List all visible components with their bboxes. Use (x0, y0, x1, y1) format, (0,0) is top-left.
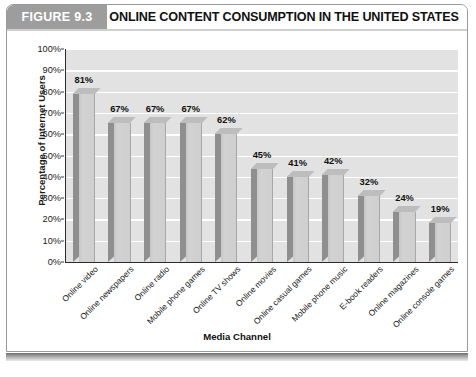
bar-top-face (287, 171, 315, 177)
bar[interactable] (144, 117, 166, 262)
bar-group[interactable]: 62% (215, 49, 237, 262)
bar-value-label: 62% (215, 115, 237, 125)
bar[interactable] (251, 163, 273, 262)
y-axis-tick-mark (61, 91, 64, 92)
bar[interactable] (108, 117, 130, 262)
bar[interactable] (73, 88, 95, 262)
bar-value-label: 67% (180, 104, 202, 114)
y-axis-tick-label: 80% (27, 87, 61, 97)
bar-top-face (144, 117, 172, 123)
y-axis-tick-label: 30% (27, 193, 61, 203)
bar-top-face (358, 190, 386, 196)
bar-top-face (73, 88, 101, 94)
bar-value-label: 41% (287, 158, 309, 168)
bar-value-label: 32% (358, 177, 380, 187)
bar-group[interactable]: 24% (393, 49, 415, 262)
bar-group[interactable]: 67% (108, 49, 130, 262)
y-axis-tick-mark (61, 155, 64, 156)
plot-area: 81%67%67%67%62%45%41%42%32%24%19% (65, 49, 458, 263)
bar-front-face (435, 223, 451, 262)
page-bottom-strip (6, 353, 468, 361)
bar-group[interactable]: 32% (358, 49, 380, 262)
y-axis-tick-mark (61, 112, 64, 113)
bar-group[interactable]: 45% (251, 49, 273, 262)
y-axis-tick-label: 0% (27, 257, 61, 267)
bar-top-face (180, 117, 208, 123)
bar-group[interactable]: 81% (73, 49, 95, 262)
figure-card: FIGURE 9.3 ONLINE CONTENT CONSUMPTION IN… (6, 4, 468, 352)
bar-group[interactable]: 67% (144, 49, 166, 262)
y-axis-tick-label: 90% (27, 65, 61, 75)
bar-top-face (251, 163, 279, 169)
bar[interactable] (393, 206, 415, 262)
bar-top-face (215, 128, 243, 134)
y-axis-tick-mark (61, 262, 64, 263)
bar-top-face (108, 117, 136, 123)
bar[interactable] (322, 169, 344, 262)
figure-title: ONLINE CONTENT CONSUMPTION IN THE UNITED… (109, 10, 458, 24)
x-axis-title: Media Channel (7, 331, 467, 342)
bar[interactable] (215, 128, 237, 262)
bar-front-face (150, 123, 166, 262)
bar-value-label: 67% (108, 104, 130, 114)
bar-front-face (221, 134, 237, 262)
figure-header: FIGURE 9.3 ONLINE CONTENT CONSUMPTION IN… (7, 5, 467, 29)
bar[interactable] (358, 190, 380, 262)
bar-front-face (186, 123, 202, 262)
y-axis-tick-label: 70% (27, 108, 61, 118)
bar-group[interactable]: 41% (287, 49, 309, 262)
bar-front-face (293, 177, 309, 262)
bar-value-label: 81% (73, 75, 95, 85)
bar-front-face (364, 196, 380, 262)
y-axis-tick-label: 100% (27, 44, 61, 54)
y-axis-tick-labels: 100%90%80%70%60%50%40%30%20%10%0% (27, 49, 61, 262)
y-axis-tick-mark (61, 49, 64, 50)
figure-number-badge: FIGURE 9.3 (7, 5, 107, 29)
bar-value-label: 45% (251, 150, 273, 160)
bar-front-face (257, 169, 273, 262)
bar-group[interactable]: 42% (322, 49, 344, 262)
y-axis-tick-mark (61, 198, 64, 199)
bar-value-label: 42% (322, 156, 344, 166)
y-axis-tick-label: 60% (27, 129, 61, 139)
bar-front-face (328, 175, 344, 262)
bar-top-face (429, 217, 457, 223)
y-axis-tick-mark (61, 240, 64, 241)
y-axis-tick-mark (61, 70, 64, 71)
figure-title-container: ONLINE CONTENT CONSUMPTION IN THE UNITED… (107, 5, 467, 29)
bar-value-label: 67% (144, 104, 166, 114)
bar-top-face (393, 206, 421, 212)
y-axis-tick-label: 10% (27, 236, 61, 246)
y-axis-tick-mark (61, 176, 64, 177)
bar-value-label: 24% (393, 193, 415, 203)
bar[interactable] (287, 171, 309, 262)
x-axis-category-labels: Online videoOnline newspapersOnline radi… (65, 264, 457, 336)
y-axis-tick-label: 40% (27, 172, 61, 182)
y-axis-tick-mark (61, 134, 64, 135)
bar-top-face (322, 169, 350, 175)
y-axis-tick-label: 50% (27, 151, 61, 161)
bar-front-face (114, 123, 130, 262)
bar-front-face (79, 94, 95, 262)
bar-group[interactable]: 67% (180, 49, 202, 262)
bar-group[interactable]: 19% (429, 49, 451, 262)
bar[interactable] (429, 217, 451, 262)
chart-region: Percentage of Internet Users 100%90%80%7… (7, 31, 467, 351)
y-axis-tick-label: 20% (27, 214, 61, 224)
y-axis-tick-mark (61, 219, 64, 220)
bar[interactable] (180, 117, 202, 262)
bar-front-face (399, 212, 415, 262)
bar-value-label: 19% (429, 204, 451, 214)
bars-layer: 81%67%67%67%62%45%41%42%32%24%19% (66, 49, 458, 262)
